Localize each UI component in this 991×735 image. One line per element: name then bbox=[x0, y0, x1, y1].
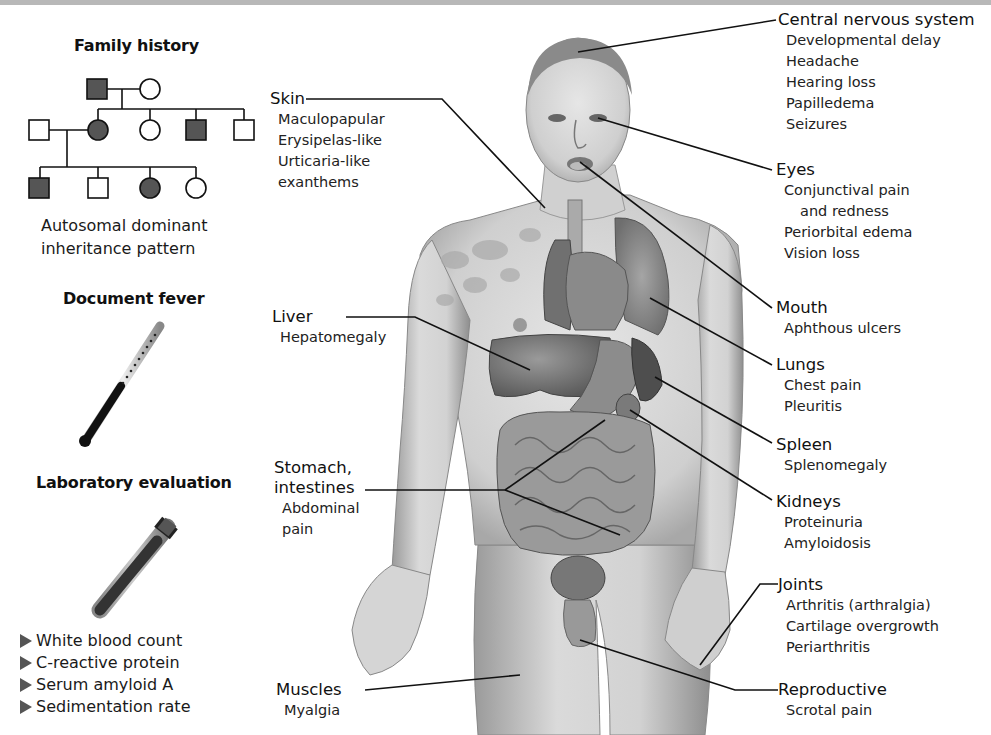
label-muscles: Muscles Myalgia bbox=[276, 680, 342, 721]
label-central-nervous-system: Central nervous system Developmental del… bbox=[778, 10, 975, 135]
label-eyes: Eyes Conjunctival pain and redness Perio… bbox=[776, 160, 912, 264]
symptom-item: Headache bbox=[786, 51, 975, 72]
symptom-item: Papilledema bbox=[786, 93, 975, 114]
label-spleen: Spleen Splenomegaly bbox=[776, 435, 887, 476]
bladder bbox=[551, 556, 605, 600]
label-title-line1: Stomach, bbox=[274, 458, 359, 478]
symptom-list: Conjunctival pain and redness Periorbita… bbox=[776, 180, 912, 264]
symptom-list: Splenomegaly bbox=[776, 455, 887, 476]
symptom-item: Pleuritis bbox=[784, 396, 861, 417]
symptom-list: Hepatomegaly bbox=[272, 327, 386, 348]
symptom-list: Arthritis (arthralgia) Cartilage overgro… bbox=[778, 595, 939, 658]
label-liver: Liver Hepatomegaly bbox=[272, 307, 386, 348]
symptom-item: Seizures bbox=[786, 114, 975, 135]
nipple bbox=[513, 318, 527, 332]
label-stomach-intestines: Stomach, intestines Abdominal pain bbox=[274, 458, 359, 540]
label-skin: Skin Maculopapular Erysipelas-like Urtic… bbox=[270, 89, 385, 193]
symptom-item: Hearing loss bbox=[786, 72, 975, 93]
symptom-item: Erysipelas-like bbox=[278, 130, 385, 151]
symptom-item: Vision loss bbox=[784, 243, 912, 264]
eye-left bbox=[589, 114, 607, 122]
symptom-item: Periarthritis bbox=[786, 637, 939, 658]
label-title: Liver bbox=[272, 307, 386, 327]
symptom-item: Abdominal bbox=[282, 498, 359, 519]
symptom-list: Myalgia bbox=[276, 700, 342, 721]
symptom-item: Splenomegaly bbox=[784, 455, 887, 476]
symptom-list: Developmental delay Headache Hearing los… bbox=[778, 30, 975, 135]
label-title: Skin bbox=[270, 89, 385, 109]
symptom-item: Chest pain bbox=[784, 375, 861, 396]
symptom-list: Proteinuria Amyloidosis bbox=[776, 512, 871, 554]
label-title: Mouth bbox=[776, 298, 901, 318]
symptom-item: Aphthous ulcers bbox=[784, 318, 901, 339]
eye-right bbox=[548, 114, 566, 122]
symptom-item: Developmental delay bbox=[786, 30, 975, 51]
label-reproductive: Reproductive Scrotal pain bbox=[778, 680, 887, 721]
label-title: Muscles bbox=[276, 680, 342, 700]
label-title: Joints bbox=[778, 575, 939, 595]
label-title: Spleen bbox=[776, 435, 887, 455]
symptom-item: Arthritis (arthralgia) bbox=[786, 595, 939, 616]
symptom-list: Maculopapular Erysipelas-like Urticaria-… bbox=[270, 109, 385, 193]
label-title: Central nervous system bbox=[778, 10, 975, 30]
symptom-list: Chest pain Pleuritis bbox=[776, 375, 861, 417]
symptom-item: Conjunctival pain bbox=[784, 180, 912, 201]
symptom-item: Scrotal pain bbox=[786, 700, 887, 721]
label-joints: Joints Arthritis (arthralgia) Cartilage … bbox=[778, 575, 939, 658]
symptom-item: exanthems bbox=[278, 172, 385, 193]
label-kidneys: Kidneys Proteinuria Amyloidosis bbox=[776, 492, 871, 554]
label-title: Kidneys bbox=[776, 492, 871, 512]
symptom-item: Cartilage overgrowth bbox=[786, 616, 939, 637]
symptom-list: Aphthous ulcers bbox=[776, 318, 901, 339]
symptom-item: Myalgia bbox=[284, 700, 342, 721]
symptom-list: Scrotal pain bbox=[778, 700, 887, 721]
label-lungs: Lungs Chest pain Pleuritis bbox=[776, 355, 861, 417]
intestines bbox=[497, 412, 655, 555]
symptom-item: pain bbox=[282, 519, 359, 540]
label-title-line2: intestines bbox=[274, 478, 359, 498]
symptom-item: and redness bbox=[784, 201, 912, 222]
symptom-item: Amyloidosis bbox=[784, 533, 871, 554]
label-title: Eyes bbox=[776, 160, 912, 180]
genitals bbox=[564, 600, 596, 647]
symptom-item: Hepatomegaly bbox=[280, 327, 386, 348]
symptom-list: Abdominal pain bbox=[274, 498, 359, 540]
symptom-item: Proteinuria bbox=[784, 512, 871, 533]
symptom-item: Maculopapular bbox=[278, 109, 385, 130]
label-mouth: Mouth Aphthous ulcers bbox=[776, 298, 901, 339]
label-title: Reproductive bbox=[778, 680, 887, 700]
symptom-item: Urticaria-like bbox=[278, 151, 385, 172]
hand-left bbox=[352, 565, 430, 675]
symptom-item: Periorbital edema bbox=[784, 222, 912, 243]
label-title: Lungs bbox=[776, 355, 861, 375]
